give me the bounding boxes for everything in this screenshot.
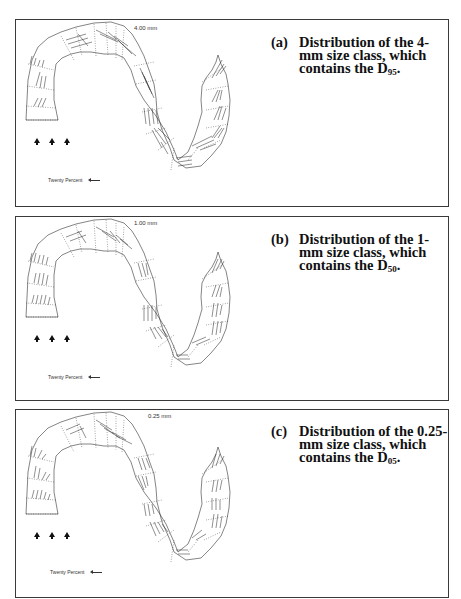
upward-arrow-icon [64, 532, 70, 537]
flow-direction-arrows [34, 138, 70, 143]
caption-period: . [397, 449, 401, 465]
panel-caption: (a) Distribution of the 4-mm size class,… [271, 36, 451, 75]
caption-text: Distribution of the 4-mm size class, whi… [299, 34, 429, 76]
caption-subscript: 05 [388, 456, 397, 466]
legend-label: Twenty Percent [48, 177, 82, 183]
upward-arrow-icon [49, 532, 55, 537]
panel-tag: (a) [271, 36, 288, 49]
scale-legend: Twenty Percent [50, 569, 102, 575]
upward-arrow-icon [34, 335, 40, 340]
left-arrow-icon [90, 377, 100, 378]
panel-tag: (b) [271, 233, 289, 246]
panel-caption: (c) Distribution of the 0.25-mm size cla… [271, 425, 451, 464]
scale-legend: Twenty Percent [48, 177, 100, 183]
panel-a: 4.00 mm Twenty Percent (a) Distribution … [15, 19, 449, 207]
caption-subscript: 50 [388, 264, 397, 274]
upward-arrow-icon [34, 532, 40, 537]
legend-label: Twenty Percent [50, 569, 84, 575]
size-class-label: 4.00 mm [134, 25, 157, 31]
upward-arrow-icon [64, 335, 70, 340]
caption-period: . [397, 257, 401, 273]
upward-arrow-icon [34, 138, 40, 143]
panel-c: 0.25 mm Twenty Percent (c) Distribution … [15, 409, 449, 598]
panel-b: 1.00 mm Twenty Percent (b) Distribution … [15, 216, 449, 401]
caption-subscript: 95 [388, 67, 397, 77]
flow-direction-arrows [34, 335, 70, 340]
legend-label: Twenty Percent [48, 374, 82, 380]
panel-caption: (b) Distribution of the 1-mm size class,… [271, 233, 451, 272]
left-arrow-icon [92, 572, 102, 573]
flow-direction-arrows [34, 532, 70, 537]
size-class-label: 1.00 mm [134, 220, 157, 226]
size-class-label: 0.25 mm [148, 413, 171, 419]
panel-tag: (c) [271, 425, 287, 438]
caption-text: Distribution of the 1-mm size class, whi… [299, 231, 429, 273]
left-arrow-icon [90, 180, 100, 181]
upward-arrow-icon [49, 138, 55, 143]
upward-arrow-icon [64, 138, 70, 143]
upward-arrow-icon [49, 335, 55, 340]
caption-text: Distribution of the 0.25-mm size class, … [299, 423, 447, 465]
caption-period: . [397, 60, 401, 76]
scale-legend: Twenty Percent [48, 374, 100, 380]
